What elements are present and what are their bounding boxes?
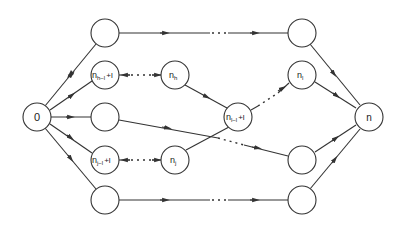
node-top-left bbox=[91, 19, 119, 47]
node-n-j-minus-l-plus-l: nj−l+l bbox=[91, 146, 119, 174]
node-n-l-minus-l-plus-l: nl−l+l bbox=[224, 103, 252, 131]
node-bottom-right bbox=[288, 186, 316, 214]
edge-j2-to-mid bbox=[186, 127, 229, 150]
node-bottom-left bbox=[91, 186, 119, 214]
edge-m1-to-r4 bbox=[119, 120, 288, 156]
node-source-label: 0 bbox=[34, 111, 40, 123]
node-n-h: nh bbox=[161, 61, 189, 89]
network-graph-diagram: 0 nh−l+l nh nl−l+l nl n nj−l+l nj bbox=[0, 0, 404, 231]
node-source: 0 bbox=[23, 103, 51, 131]
node-lower-right bbox=[288, 146, 316, 174]
node-n-j: nj bbox=[161, 146, 189, 174]
node-n-l: nl bbox=[288, 61, 316, 89]
node-top-right bbox=[288, 19, 316, 47]
edge-src-to-j1 bbox=[50, 124, 92, 153]
edge-b2-to-sink bbox=[310, 129, 360, 189]
node-sink-label: n bbox=[366, 112, 372, 123]
node-n-h-minus-l-plus-l: nh−l+l bbox=[91, 61, 119, 89]
node-middle-left bbox=[91, 103, 119, 131]
edge-l1-to-sink bbox=[315, 82, 356, 108]
edge-r4-to-sink bbox=[315, 125, 356, 152]
node-sink: n bbox=[355, 103, 383, 131]
edge-h2-to-mid bbox=[185, 85, 227, 108]
edge-t2-to-sink bbox=[310, 44, 360, 105]
edge-mid-to-l1 bbox=[251, 83, 289, 110]
edge-src-to-h1 bbox=[50, 81, 92, 110]
